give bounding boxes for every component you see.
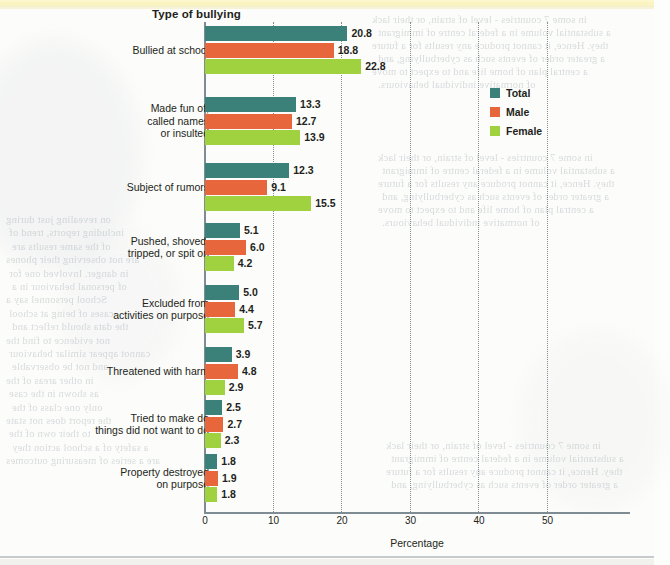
bar-value-label: 2.5 [226,400,241,415]
gridline-10 [273,22,275,512]
bar-value-label: 2.7 [227,417,242,432]
category-label-line: Threatened with harm [0,365,209,377]
bar-female [205,130,300,145]
gridline-40 [478,22,480,512]
bar-total [205,97,296,112]
category-label-line: things did not want to do [0,424,209,436]
legend-label-total: Total [506,87,530,99]
legend-swatch-female [490,126,500,136]
category-label-line: Pushed, shoved, [0,235,209,247]
bar-value-label: 13.9 [304,130,324,145]
bar-value-label: 12.3 [293,163,313,178]
bar-value-label: 13.3 [300,97,320,112]
x-tick-label: 20 [336,515,347,526]
bar-value-label: 2.9 [229,380,244,395]
bar-value-label: 2.3 [225,433,240,448]
bar-value-label: 4.2 [238,256,253,271]
bar-female [205,59,361,74]
bar-total [205,163,289,178]
bar-value-label: 5.1 [244,223,259,238]
bar-value-label: 1.8 [221,454,236,469]
bar-value-label: 22.8 [365,59,385,74]
category-label-line: Excluded from [0,297,209,309]
category-label: Pushed, shoved,tripped, or spit on [0,235,209,260]
legend-label-male: Male [506,106,529,118]
bar-value-label: 18.8 [338,43,358,58]
category-label: Threatened with harm [0,365,209,377]
category-label-line: Bullied at school [0,44,209,56]
category-label-line: on purpose [0,478,209,490]
bar-value-label: 5.0 [243,285,258,300]
bar-male [205,114,292,129]
bar-total [205,347,232,362]
bar-female [205,196,311,211]
bar-value-label: 6.0 [250,240,265,255]
category-label: Bullied at school [0,44,209,56]
bar-male [205,417,223,432]
bar-female [205,487,217,502]
bar-value-label: 1.8 [221,487,236,502]
gridline-50 [547,22,549,512]
bar-total [205,223,240,238]
bar-total [205,454,217,469]
category-label-line: Tried to make do [0,412,209,424]
bar-value-label: 4.4 [239,302,254,317]
bar-female [205,318,244,333]
bar-value-label: 12.7 [296,114,316,129]
x-tick-label: 50 [542,515,553,526]
chart-legend: Total Male Female [490,84,542,141]
legend-swatch-male [490,107,500,117]
x-tick-label: 40 [473,515,484,526]
bar-value-label: 15.5 [315,196,335,211]
bar-female [205,433,221,448]
bar-male [205,43,334,58]
chart-title: Type of bullying [152,8,241,20]
bar-total [205,26,347,41]
bar-female [205,256,234,271]
category-label-line: Subject of rumors [0,181,209,193]
bar-male [205,302,235,317]
bar-male [205,180,267,195]
bar-female [205,380,225,395]
bar-value-label: 4.8 [242,364,257,379]
legend-item-female: Female [490,122,542,139]
category-label: Subject of rumors [0,181,209,193]
legend-item-total: Total [490,84,542,101]
category-label-line: called names [0,115,209,127]
x-axis-line [204,512,630,514]
category-label-line: activities on purpose [0,309,209,321]
category-label-line: Property destroyed [0,466,209,478]
category-label: Made fun of,called namesor insulted [0,102,209,139]
x-tick-label: 30 [405,515,416,526]
category-label: Tried to make dothings did not want to d… [0,412,209,437]
gridline-20 [341,22,343,512]
bar-total [205,400,222,415]
x-tick-label: 10 [268,515,279,526]
legend-item-male: Male [490,103,542,120]
legend-label-female: Female [506,125,542,137]
category-label: Excluded fromactivities on purpose [0,297,209,322]
bar-total [205,285,239,300]
bar-value-label: 5.7 [248,318,263,333]
bar-male [205,364,238,379]
bar-male [205,471,218,486]
bar-value-label: 1.9 [222,471,237,486]
legend-swatch-total [490,88,500,98]
bar-value-label: 20.8 [351,26,371,41]
gridline-30 [410,22,412,512]
bar-value-label: 3.9 [236,347,251,362]
bar-male [205,240,246,255]
category-label-line: Made fun of, [0,102,209,114]
x-tick-label: 0 [202,515,208,526]
category-label-line: tripped, or spit on [0,247,209,259]
bar-value-label: 9.1 [271,180,286,195]
x-axis-caption: Percentage [390,537,444,549]
category-label-line: or insulted [0,127,209,139]
category-label: Property destroyedon purpose [0,466,209,491]
